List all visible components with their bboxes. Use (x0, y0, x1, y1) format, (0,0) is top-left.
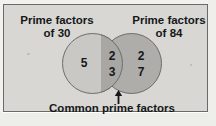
right-set-label-line1: Prime factors (126, 14, 212, 27)
intersection-value-2: 3 (104, 65, 120, 79)
intersection-value-1: 2 (104, 49, 120, 63)
venn-circle-right (101, 33, 162, 94)
venn-diagram-figure: Prime factors of 30 Prime factors of 84 … (0, 0, 216, 126)
scan-speck (190, 64, 192, 66)
right-exclusive-value-1: 2 (133, 49, 149, 63)
right-exclusive-value-2: 7 (133, 65, 149, 79)
left-set-label-line1: Prime factors (14, 14, 100, 27)
left-exclusive-value: 5 (76, 56, 92, 70)
intersection-caption: Common prime factors (32, 102, 192, 115)
figure-frame: Prime factors of 30 Prime factors of 84 … (3, 4, 208, 112)
scan-speck (27, 53, 30, 55)
